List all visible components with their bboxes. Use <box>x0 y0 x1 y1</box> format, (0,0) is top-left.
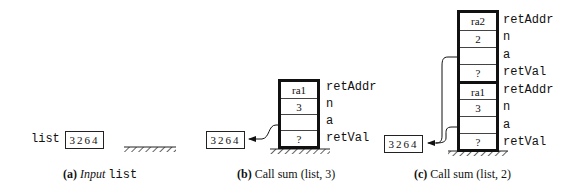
stack-label: retAddr <box>326 80 376 94</box>
ground-hatch-b <box>270 149 330 154</box>
stack-cell: ? <box>281 130 317 147</box>
stack-cell: ra1 <box>281 82 317 99</box>
stack-label: n <box>326 97 333 111</box>
stack-label: a <box>503 118 510 132</box>
stack-cell <box>460 116 496 134</box>
caption-c-letter: (c) <box>414 167 427 181</box>
stack-label: a <box>326 114 333 128</box>
stack-label: n <box>503 30 510 44</box>
variable-label-list: list <box>31 132 60 146</box>
stack-cell: ra1 <box>460 81 496 101</box>
stack-label: retVal <box>326 131 369 145</box>
caption-a: (a) Input list <box>63 167 137 182</box>
array-box-b: 3264 <box>206 131 245 149</box>
stack-label: n <box>503 100 510 114</box>
caption-a-italic: Input <box>80 167 105 181</box>
caption-b-text: Call sum (list, 3) <box>255 167 336 181</box>
stack-cell <box>281 114 317 131</box>
stack-label: retAddr <box>503 83 553 97</box>
stack-cell: ra2 <box>460 13 496 30</box>
array-box-c: 3264 <box>384 135 423 153</box>
caption-a-mono: list <box>108 168 137 182</box>
stack-label: a <box>503 48 510 62</box>
stack-label: retAddr <box>503 13 553 27</box>
ground-hatch-a <box>124 147 176 152</box>
stack-cell: ? <box>460 64 496 82</box>
stack-frame-b: ra1 3 ? <box>278 79 320 149</box>
stack-cell: 3 <box>460 99 496 117</box>
stack-label: retVal <box>503 65 546 79</box>
caption-c-text: Call sum (list, 2) <box>430 167 511 181</box>
stack-cell <box>460 47 496 65</box>
stack-cell: 2 <box>460 30 496 48</box>
caption-a-letter: (a) <box>63 167 77 181</box>
caption-b: (b) Call sum (list, 3) <box>237 167 335 182</box>
caption-c: (c) Call sum (list, 2) <box>414 167 511 182</box>
array-box-a: 3264 <box>65 131 104 149</box>
stack-cell: ? <box>460 133 496 151</box>
stack-frame-c: ra2 2 ? ra1 3 ? <box>457 10 499 152</box>
stack-label: retVal <box>503 135 546 149</box>
stack-cell: 3 <box>281 98 317 115</box>
caption-b-letter: (b) <box>237 167 252 181</box>
